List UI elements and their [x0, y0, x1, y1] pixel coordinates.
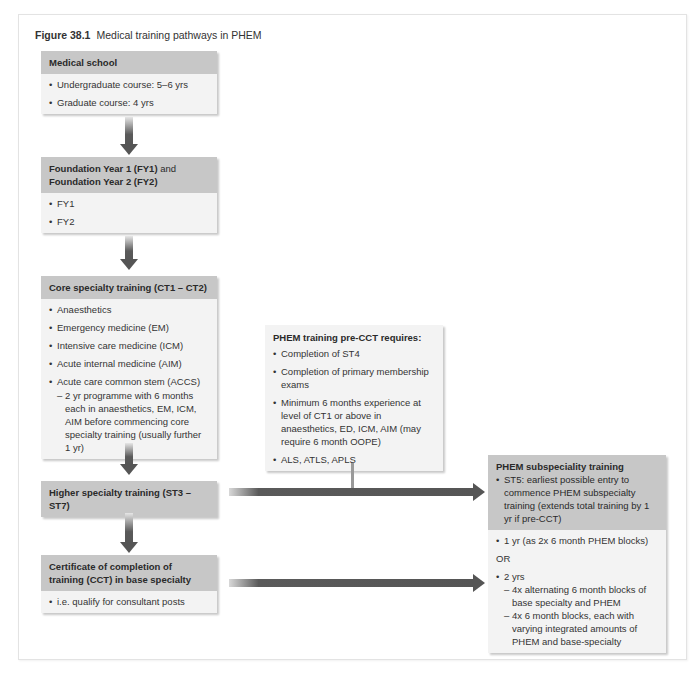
medical-school-box: Medical school Undergraduate course: 5–6…	[41, 51, 217, 114]
right-arrow-icon	[229, 579, 485, 587]
list-item: Acute care common stem (ACCS)	[49, 375, 209, 388]
figure-title: Medical training pathways in PHEM	[96, 29, 261, 41]
figure-caption: Figure 38.1Medical training pathways in …	[35, 29, 262, 41]
core-training-box: Core specialty training (CT1 – CT2) Anae…	[41, 276, 217, 459]
foundation-title-part-2: Foundation Year 2 (FY2)	[49, 176, 158, 187]
list-item: FY1	[49, 197, 209, 210]
list-item: Intensive care medicine (ICM)	[49, 339, 209, 352]
pre-cct-requirements-box: PHEM training pre-CCT requires: Completi…	[265, 325, 443, 471]
list-item: Completion of ST4	[273, 347, 435, 360]
higher-training-box: Higher specialty training (ST3 – ST7)	[41, 481, 217, 517]
down-arrow-icon	[125, 513, 133, 553]
subspeciality-header: PHEM subspeciality training ST5: earlies…	[488, 455, 666, 530]
list-item: Emergency medicine (EM)	[49, 321, 209, 334]
list-sub-item: 4x 6 month blocks, each with varying int…	[496, 609, 658, 648]
foundation-box: Foundation Year 1 (FY1) and Foundation Y…	[41, 157, 217, 233]
pre-cct-title: PHEM training pre-CCT requires:	[273, 331, 435, 344]
list-item: FY2	[49, 215, 209, 228]
list-item: Minimum 6 months experience at level of …	[273, 396, 435, 448]
medical-school-title: Medical school	[41, 51, 217, 74]
list-item: Completion of primary membership exams	[273, 365, 435, 391]
list-item: ST5: earliest possible entry to commence…	[496, 473, 658, 525]
list-item: Anaesthetics	[49, 303, 209, 316]
foundation-title: Foundation Year 1 (FY1) and Foundation Y…	[41, 157, 217, 193]
core-training-title: Core specialty training (CT1 – CT2)	[41, 276, 217, 299]
right-arrow-icon	[229, 488, 485, 496]
subspeciality-title: PHEM subspeciality training	[496, 460, 658, 473]
cct-title: Certificate of completion of training (C…	[41, 555, 217, 591]
list-item: ALS, ATLS, APLS	[273, 453, 435, 466]
connector-line	[351, 463, 354, 489]
higher-training-title: Higher specialty training (ST3 – ST7)	[41, 481, 217, 517]
cct-box: Certificate of completion of training (C…	[41, 555, 217, 613]
down-arrow-icon	[125, 117, 133, 155]
down-arrow-icon	[125, 236, 133, 270]
foundation-title-part-1: Foundation Year 1 (FY1)	[49, 163, 158, 174]
down-arrow-icon	[125, 443, 133, 475]
list-item: Graduate course: 4 yrs	[49, 96, 209, 109]
figure-number: Figure 38.1	[35, 29, 90, 41]
list-item: 2 yrs	[496, 570, 658, 583]
list-sub-item: 4x alternating 6 month blocks of base sp…	[496, 583, 658, 609]
foundation-title-and: and	[158, 163, 177, 174]
list-item: Undergraduate course: 5–6 yrs	[49, 78, 209, 91]
subspeciality-box: PHEM subspeciality training ST5: earlies…	[488, 455, 666, 653]
list-item: 1 yr (as 2x 6 month PHEM blocks)	[496, 534, 658, 547]
list-item: Acute internal medicine (AIM)	[49, 357, 209, 370]
list-item: i.e. qualify for consultant posts	[49, 595, 209, 608]
or-label: OR	[496, 552, 658, 565]
